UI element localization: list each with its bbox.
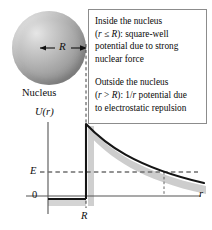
radius-tick-label: R (81, 211, 87, 222)
coulomb-curve-shadow (88, 127, 206, 194)
energy-level-label: E (30, 166, 36, 177)
y-axis-label: U(r) (35, 107, 54, 118)
nuclear-potential-figure: R Nucleus Inside the nucleus (r ≤ R): sq… (0, 0, 212, 230)
x-axis-label: r (199, 189, 203, 200)
origin-label: 0 (32, 190, 37, 201)
